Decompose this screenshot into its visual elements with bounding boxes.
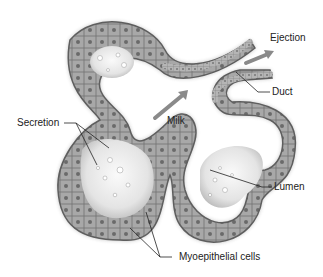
label-lumen: Lumen	[274, 181, 305, 193]
label-secretion: Secretion	[17, 117, 59, 129]
alveoli-diagram: Ejection Duct Secretion Milk Lumen Myoep…	[0, 0, 323, 277]
label-ejection: Ejection	[270, 32, 306, 44]
label-milk: Milk	[167, 115, 185, 127]
label-duct: Duct	[272, 86, 293, 98]
label-myoepithelial-cells: Myoepithelial cells	[179, 251, 260, 263]
upper-lumen	[90, 46, 134, 78]
